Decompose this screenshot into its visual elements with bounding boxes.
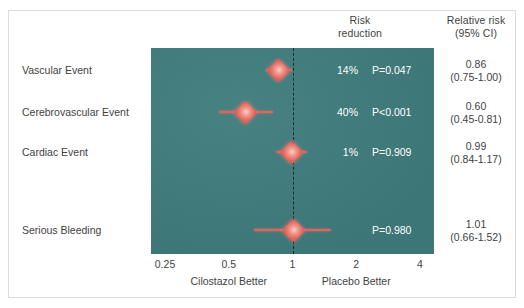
relative-risk-value-vascular-event: 0.86: [432, 58, 520, 71]
relative-risk-cardiac-event: 0.99 (0.84-1.17): [432, 140, 520, 165]
risk-reduction-vascular-event: 14%: [312, 64, 358, 76]
relative-risk-value-cardiac-event: 0.99: [432, 140, 520, 153]
header-risk-reduction-line1: Risk: [312, 14, 408, 27]
p-value-vascular-event: P=0.047: [372, 64, 411, 76]
row-label-cerebrovascular-event: Cerebrovascular Event: [22, 106, 152, 118]
relative-risk-ci-cerebrovascular-event: (0.45-0.81): [432, 113, 520, 126]
header-relative-risk: Relative risk (95% CI): [432, 14, 520, 39]
point-marker-cerebrovascular-event: [233, 100, 257, 124]
relative-risk-vascular-event: 0.86 (0.75-1.00): [432, 58, 520, 83]
header-relative-risk-line1: Relative risk: [432, 14, 520, 27]
risk-reduction-cardiac-event: 1%: [312, 146, 358, 158]
relative-risk-serious-bleeding: 1.01 (0.66-1.52): [432, 218, 520, 243]
point-marker-serious-bleeding: [281, 218, 305, 242]
row-label-vascular-event: Vascular Event: [22, 64, 152, 76]
point-marker-vascular-event: [267, 58, 291, 82]
relative-risk-value-serious-bleeding: 1.01: [432, 218, 520, 231]
relative-risk-ci-serious-bleeding: (0.66-1.52): [432, 231, 520, 244]
point-marker-cardiac-event: [280, 140, 304, 164]
relative-risk-ci-vascular-event: (0.75-1.00): [432, 71, 520, 84]
axis-tick-3: 2: [336, 258, 376, 270]
row-label-serious-bleeding: Serious Bleeding: [22, 224, 152, 236]
axis-tick-0: 0.25: [145, 258, 185, 270]
header-relative-risk-line2: (95% CI): [432, 27, 520, 40]
axis-tick-4: 4: [400, 258, 440, 270]
relative-risk-cerebrovascular-event: 0.60 (0.45-0.81): [432, 100, 520, 125]
p-value-cerebrovascular-event: P<0.001: [372, 106, 411, 118]
p-value-cardiac-event: P=0.909: [372, 146, 411, 158]
axis-caption-placebo-better: Placebo Better: [291, 275, 421, 287]
axis-caption-cilostazol-better: Cilostazol Better: [164, 275, 294, 287]
relative-risk-value-cerebrovascular-event: 0.60: [432, 100, 520, 113]
header-risk-reduction-line2: reduction: [312, 27, 408, 40]
axis-tick-1: 0.5: [209, 258, 249, 270]
p-value-serious-bleeding: P=0.980: [372, 224, 411, 236]
header-risk-reduction: Risk reduction: [312, 14, 408, 39]
row-label-cardiac-event: Cardiac Event: [22, 146, 152, 158]
risk-reduction-cerebrovascular-event: 40%: [312, 106, 358, 118]
relative-risk-ci-cardiac-event: (0.84-1.17): [432, 153, 520, 166]
axis-tick-2: 1: [273, 258, 313, 270]
